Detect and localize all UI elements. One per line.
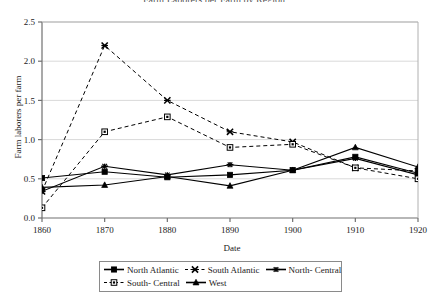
y-tick-label: 0.0: [24, 213, 36, 223]
chart-figure: Farm Laborers per Farm by Region Farm la…: [0, 0, 428, 295]
data-point-marker-filled-square: [111, 267, 116, 272]
data-point-marker-open-square: [39, 205, 45, 211]
data-point-marker-x-cross: [191, 266, 198, 272]
legend-item-label: North Atlantic: [127, 265, 179, 275]
data-point-marker-filled-square: [102, 169, 107, 174]
legend-item-label: South Atlantic: [208, 265, 260, 275]
x-tick-label: 1880: [158, 225, 177, 235]
data-point-marker-star-burst: [352, 156, 359, 161]
data-point-marker-open-square: [102, 129, 108, 135]
y-tick-label: 1.0: [24, 135, 36, 145]
y-axis-ticks: 0.00.51.01.52.02.5: [24, 17, 42, 223]
legend-item-label: West: [209, 278, 227, 288]
y-tick-label: 2.5: [24, 17, 36, 27]
legend-item[interactable]: South- Central: [103, 277, 180, 288]
data-point-marker-star-burst: [272, 267, 279, 272]
data-point-marker-open-square: [165, 114, 171, 120]
chart-legend: North AtlanticSouth AtlanticNorth- Centr…: [99, 261, 342, 292]
data-point-marker-open-square: [415, 176, 421, 182]
data-point-marker-open-square: [111, 280, 117, 286]
data-point-marker-open-square: [227, 145, 233, 151]
legend-marker-filled-triangle: [185, 277, 207, 288]
legend-row: North AtlanticSouth AtlanticNorth- Centr…: [103, 263, 338, 276]
legend-marker-x-cross: [184, 264, 206, 275]
data-point-marker-star-burst: [227, 162, 234, 167]
y-tick-label: 2.0: [24, 56, 36, 66]
legend-marker-star-burst: [265, 264, 287, 275]
x-tick-label: 1870: [96, 225, 115, 235]
legend-item[interactable]: North- Central: [265, 264, 342, 275]
x-tick-label: 1890: [221, 225, 240, 235]
data-point-marker-open-square: [290, 142, 296, 148]
legend-item-label: South- Central: [127, 278, 180, 288]
y-tick-label: 1.5: [24, 96, 36, 106]
legend-item[interactable]: South Atlantic: [184, 264, 260, 275]
data-point-marker-filled-square: [39, 175, 44, 180]
y-tick-label: 0.5: [24, 174, 36, 184]
x-tick-label: 1860: [33, 225, 52, 235]
plot-area: 0.00.51.01.52.02.5 186018701880189019001…: [0, 0, 428, 295]
legend-item-label: North- Central: [289, 265, 342, 275]
x-axis-ticks: 1860187018801890190019101920: [33, 218, 428, 235]
legend-item[interactable]: North Atlantic: [103, 264, 179, 275]
legend-item[interactable]: West: [185, 277, 227, 288]
x-tick-label: 1920: [409, 225, 428, 235]
legend-marker-filled-square: [103, 264, 125, 275]
data-point-marker-star-burst: [101, 164, 108, 169]
x-tick-label: 1900: [284, 225, 303, 235]
legend-marker-open-square: [103, 277, 125, 288]
x-tick-label: 1910: [346, 225, 365, 235]
legend-row: South- CentralWest: [103, 276, 338, 289]
data-point-marker-open-square: [353, 165, 359, 171]
data-point-marker-filled-square: [227, 172, 232, 177]
